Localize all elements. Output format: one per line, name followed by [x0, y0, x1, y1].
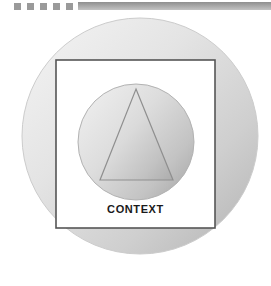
diagram-canvas: CONTEXT	[0, 0, 271, 286]
diagram-svg	[0, 0, 271, 286]
context-label: CONTEXT	[56, 203, 215, 215]
context-diagram-figure	[0, 0, 271, 286]
